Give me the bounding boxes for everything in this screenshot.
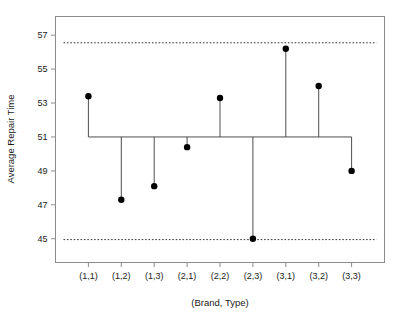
- x-tick-label: (2,1): [178, 271, 197, 281]
- x-axis-tick-labels: (1,1)(1,2)(1,3)(2,1)(2,2)(2,3)(3,1)(3,2)…: [79, 271, 361, 281]
- x-tick-label: (1,1): [79, 271, 98, 281]
- y-tick-label: 53: [37, 98, 47, 108]
- y-tick-label: 51: [37, 132, 47, 142]
- x-tick-label: (1,2): [112, 271, 131, 281]
- y-tick-label: 45: [37, 234, 47, 244]
- x-tick-label: (3,2): [309, 271, 328, 281]
- data-point-marker: [151, 183, 157, 189]
- y-axis-tick-labels: 45474951535557: [37, 30, 47, 244]
- chart-container: 45474951535557 (1,1)(1,2)(1,3)(2,1)(2,2)…: [0, 0, 400, 317]
- x-tick-label: (1,3): [145, 271, 164, 281]
- x-axis-ticks: [88, 263, 351, 268]
- stem-chart: 45474951535557 (1,1)(1,2)(1,3)(2,1)(2,2)…: [0, 0, 400, 317]
- data-point-marker: [85, 93, 91, 99]
- data-point-marker: [283, 46, 289, 52]
- x-tick-label: (3,3): [342, 271, 361, 281]
- data-points: [85, 46, 355, 242]
- data-point-marker: [348, 168, 354, 174]
- data-point-marker: [250, 236, 256, 242]
- y-tick-label: 57: [37, 30, 47, 40]
- x-tick-label: (2,2): [211, 271, 230, 281]
- y-tick-label: 49: [37, 166, 47, 176]
- y-tick-label: 47: [37, 200, 47, 210]
- data-point-marker: [316, 83, 322, 89]
- x-axis-title: (Brand, Type): [191, 297, 248, 308]
- x-tick-label: (2,3): [244, 271, 263, 281]
- stem-lines: [88, 49, 351, 239]
- y-axis-ticks: [51, 35, 56, 239]
- data-point-marker: [217, 95, 223, 101]
- y-axis-title: Average Repair Time: [5, 94, 16, 183]
- data-point-marker: [184, 144, 190, 150]
- y-tick-label: 55: [37, 64, 47, 74]
- plot-frame: [56, 17, 385, 263]
- data-point-marker: [118, 197, 124, 203]
- x-tick-label: (3,1): [277, 271, 296, 281]
